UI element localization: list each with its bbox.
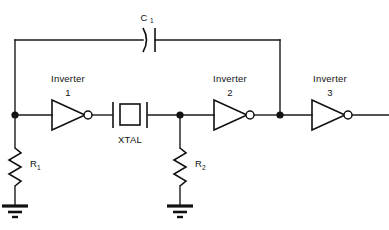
capacitor-c1 xyxy=(143,28,155,52)
resistor-r1-branch xyxy=(2,115,28,217)
inverter-3 xyxy=(312,100,352,130)
inverter-2-bubble xyxy=(246,111,254,119)
ground-1 xyxy=(2,206,28,217)
inverter-2-label: Inverter xyxy=(213,73,247,84)
resistor-r2-zigzag xyxy=(174,148,186,186)
inverter-1-bubble xyxy=(84,111,92,119)
circuit-diagram: C 1 Inverter 1 xyxy=(0,0,389,230)
inverter-1-label: Inverter xyxy=(51,73,85,84)
inverter-3-number: 3 xyxy=(327,87,332,98)
inverter-3-label: Inverter xyxy=(313,73,347,84)
resistor-r1-label: R xyxy=(30,158,37,169)
crystal-xtal xyxy=(113,102,147,128)
resistor-r1-zigzag xyxy=(9,148,21,186)
inverter-3-triangle xyxy=(312,100,345,130)
inverter-2 xyxy=(214,100,254,130)
inverter-3-bubble xyxy=(344,111,352,119)
inverter-1-triangle xyxy=(52,100,85,130)
inverter-2-triangle xyxy=(214,100,247,130)
inverter-1-number: 1 xyxy=(65,87,70,98)
ground-2 xyxy=(167,206,193,217)
junction-feedback-node xyxy=(276,111,283,118)
inverter-1 xyxy=(52,100,92,130)
resistor-r2-subscript: 2 xyxy=(202,164,206,171)
crystal-body xyxy=(120,104,140,125)
inverter-2-number: 2 xyxy=(227,87,232,98)
resistor-r2-label: R xyxy=(195,158,202,169)
resistor-r2-branch xyxy=(167,115,193,217)
circuit-schematic-canvas: C 1 Inverter 1 xyxy=(0,0,389,230)
resistor-r1-subscript: 1 xyxy=(37,164,41,171)
capacitor-c1-label: C xyxy=(140,12,147,23)
capacitor-c1-subscript: 1 xyxy=(150,17,154,24)
crystal-label: XTAL xyxy=(118,134,142,145)
